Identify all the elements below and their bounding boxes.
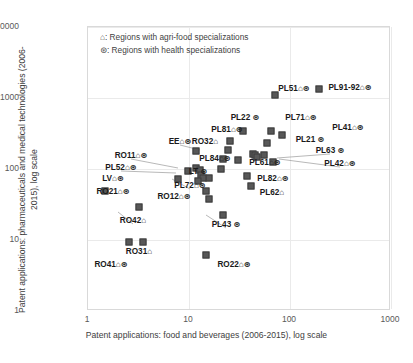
data-point-label: PL72⌂⊛ (174, 180, 205, 190)
data-point-marker (278, 132, 285, 139)
data-point-label: PL41⌂⊛ (332, 122, 363, 132)
gridline-horizontal (88, 240, 389, 241)
data-point-label: EE⌂⊛ (169, 136, 192, 146)
data-point-label: PL63 ⊛ (316, 145, 345, 155)
legend: ⌂: Regions with agri-food specialization… (100, 31, 248, 57)
data-point-label: PL22 ⊛ (231, 112, 260, 122)
x-tick-label: 100 (282, 314, 296, 324)
data-point-label: RO31⌂ (126, 247, 152, 256)
x-axis-title: Patent applications: food and beverages … (0, 330, 413, 340)
x-tick-label: 10 (183, 314, 192, 324)
gridline-vertical (290, 27, 291, 309)
data-point-label: RO21⌂⊛ (96, 186, 129, 196)
data-point-marker (140, 239, 147, 246)
data-point-label: RO32⌂ (192, 137, 218, 146)
y-tick-label: 1000 (0, 92, 19, 102)
data-point-marker (316, 86, 323, 93)
data-point-marker (205, 195, 212, 202)
data-point-label: RO42⌂ (120, 216, 146, 225)
y-tick-label: 1 (0, 305, 19, 315)
y-tick-label: 10 (0, 234, 19, 244)
data-point-label: PL84⌂⊛ (199, 153, 230, 163)
y-axis-title: Patent applications: pharmaceuticals and… (17, 45, 40, 315)
data-point-label: RO41⌂⊛ (94, 259, 127, 269)
data-point-marker (136, 204, 143, 211)
y-tick-label: 10000 (0, 21, 19, 31)
data-point-label: PL43 ⊛ (212, 219, 241, 229)
legend-entry-health: ⊛: Regions with health specializations (100, 44, 248, 57)
data-point-label: PL51⌂⊛ (278, 83, 309, 93)
data-point-marker (234, 156, 241, 163)
data-point-marker (271, 91, 278, 98)
data-point-label: PL82⌂⊛ (257, 173, 288, 183)
data-point-label: PL62⌂ (260, 188, 285, 197)
data-point-marker (226, 138, 233, 145)
data-point-marker (217, 165, 224, 172)
data-point-label: PL52⌂⊛ (105, 162, 136, 172)
data-point-label: RO12⌂⊛ (157, 191, 190, 201)
gridline-horizontal (88, 98, 389, 99)
x-tick-label: 1 (85, 314, 90, 324)
data-point-label: PL21 ⊛ (296, 134, 325, 144)
data-point-marker (263, 139, 270, 146)
data-point-label: PL61⌂⊛ (249, 157, 280, 167)
data-point-label: PL71⌂⊛ (285, 112, 316, 122)
data-point-label: RO22⌂⊛ (217, 259, 250, 269)
data-point-marker (202, 251, 209, 258)
data-point-label: LT ⊛ (189, 166, 208, 176)
data-point-label: RO11⌂⊛ (115, 150, 148, 160)
chart-root: Patent applications: pharmaceuticals and… (0, 0, 413, 363)
data-point-marker (219, 211, 226, 218)
data-point-marker (267, 128, 274, 135)
data-point-label: LV⌂⊛ (102, 173, 124, 183)
x-tick-label: 1000 (381, 314, 400, 324)
data-point-marker (125, 239, 132, 246)
data-point-label: PL91-92⌂⊛ (328, 82, 371, 92)
data-point-label: PL42⌂⊛ (324, 158, 355, 168)
gridline-vertical (391, 27, 392, 309)
data-point-label: PL81⌂⊛ (211, 124, 242, 134)
gridline-horizontal (88, 27, 389, 28)
legend-entry-agrifood: ⌂: Regions with agri-food specialization… (100, 31, 248, 44)
data-point-marker (247, 183, 254, 190)
data-point-marker (243, 172, 250, 179)
y-tick-label: 100 (0, 163, 19, 173)
